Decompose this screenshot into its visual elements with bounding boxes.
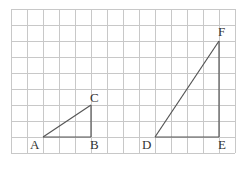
label-e: E <box>218 138 226 151</box>
label-c: C <box>90 91 99 104</box>
label-b: B <box>90 138 99 151</box>
geometry-diagram: A B C D E F <box>0 0 240 180</box>
label-f: F <box>218 25 225 38</box>
grid <box>0 0 240 180</box>
label-a: A <box>30 138 39 151</box>
label-d: D <box>142 138 151 151</box>
